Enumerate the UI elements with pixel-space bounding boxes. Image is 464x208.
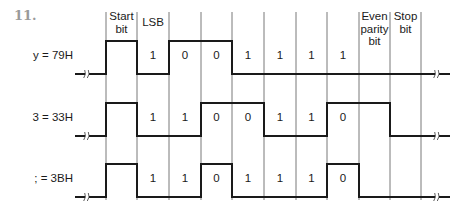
bit-value: 0 [201,49,232,61]
bit-header-line: Even [359,10,390,23]
bit-value: 1 [264,111,296,123]
bit-header: Startbit [106,10,137,35]
bit-header-line: parity [359,23,390,36]
bit-value: 1 [264,49,296,61]
bit-value: 1 [137,49,169,61]
bit-value: 0 [327,111,359,123]
bit-value: 1 [169,111,201,123]
bit-value: 1 [296,111,327,123]
bit-header-line: bit [106,23,137,36]
bit-value: 1 [232,172,264,184]
bit-value: 1 [327,49,359,61]
row-label: ; = 3BH [0,172,73,184]
bit-value: 0 [169,49,201,61]
bit-value: 0 [201,111,232,123]
bit-value: 0 [201,172,232,184]
bit-value: 1 [296,49,327,61]
bit-value: 1 [137,111,169,123]
bit-value: 1 [264,172,296,184]
bit-header: Evenparitybit [359,10,390,48]
bit-value: 0 [327,172,359,184]
bit-header-line: Stop [390,10,421,23]
bit-header-line: bit [390,23,421,36]
bit-value: 1 [137,172,169,184]
row-label: 3 = 33H [0,111,73,123]
bit-value: 1 [169,172,201,184]
bit-header-line: Start [106,10,137,23]
bit-header: Stopbit [390,10,421,35]
bit-value: 1 [296,172,327,184]
bit-value: 1 [232,49,264,61]
bit-header: LSB [137,16,169,29]
bit-header-line: LSB [137,16,169,29]
row-label: y = 79H [0,49,73,61]
bit-header-line: bit [359,35,390,48]
bit-value: 0 [232,111,264,123]
